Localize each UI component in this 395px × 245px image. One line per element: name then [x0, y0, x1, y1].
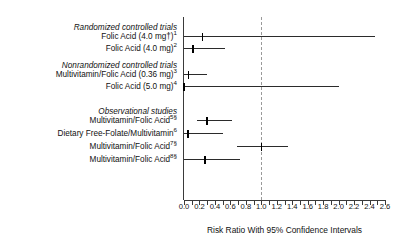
- point-estimate-row-5: [206, 117, 208, 125]
- plot-area: 0.00.20.40.60.81.01.21.41.61.82.02.22.42…: [0, 0, 395, 245]
- x-tick-label-0.0: 0.0: [179, 203, 190, 211]
- ci-line-row-4: [184, 86, 339, 87]
- x-axis-tick-2.5: [377, 201, 378, 205]
- ci-line-row-1: [184, 36, 375, 37]
- x-axis-tick-1.5: [300, 201, 301, 205]
- x-axis-tick-0.3: [207, 201, 208, 205]
- x-axis-tick-2.1: [346, 201, 347, 205]
- x-axis-tick-2.3: [362, 201, 363, 205]
- x-tick-label-1.8: 1.8: [318, 203, 329, 211]
- ci-line-row-2: [184, 48, 225, 49]
- x-axis-tick-1.7: [315, 201, 316, 205]
- reference-line-1: [261, 17, 262, 200]
- x-tick-label-0.2: 0.2: [194, 203, 205, 211]
- x-tick-label-2.4: 2.4: [364, 203, 375, 211]
- x-tick-label-2.6: 2.6: [380, 203, 391, 211]
- x-axis-tick-0.7: [238, 201, 239, 205]
- y-axis-spine: [183, 17, 184, 200]
- x-axis-tick-1.9: [331, 201, 332, 205]
- x-axis-tick-1.1: [269, 201, 270, 205]
- x-axis-tick-0.1: [192, 201, 193, 205]
- x-tick-label-1.6: 1.6: [302, 203, 313, 211]
- point-estimate-row-2: [192, 45, 194, 53]
- x-tick-label-0.4: 0.4: [210, 203, 221, 211]
- x-tick-label-0.6: 0.6: [225, 203, 236, 211]
- x-tick-label-0.8: 0.8: [241, 203, 252, 211]
- ci-line-row-8: [184, 159, 240, 160]
- x-axis-title: Risk Ratio With 95% Confidence Intervals: [184, 225, 385, 235]
- x-axis-tick-1.3: [285, 201, 286, 205]
- point-estimate-row-7: [261, 143, 263, 151]
- ci-line-row-7: [237, 146, 289, 147]
- point-estimate-row-3: [188, 71, 190, 79]
- x-axis-tick-0.9: [254, 201, 255, 205]
- ci-line-row-6: [184, 133, 223, 134]
- x-axis-tick-0.5: [223, 201, 224, 205]
- x-tick-label-1.2: 1.2: [271, 203, 282, 211]
- x-tick-label-1.0: 1.0: [256, 203, 267, 211]
- point-estimate-row-4: [183, 83, 185, 91]
- x-tick-label-2.2: 2.2: [349, 203, 360, 211]
- x-tick-label-2.0: 2.0: [333, 203, 344, 211]
- point-estimate-row-6: [187, 130, 189, 138]
- forest-plot-figure: Randomized controlled trials Folic Acid …: [0, 0, 395, 245]
- point-estimate-row-1: [202, 33, 204, 41]
- x-tick-label-1.4: 1.4: [287, 203, 298, 211]
- point-estimate-row-8: [204, 156, 206, 164]
- ci-line-row-5: [197, 120, 232, 121]
